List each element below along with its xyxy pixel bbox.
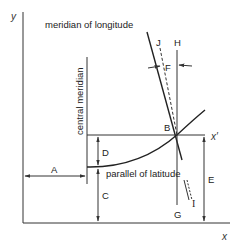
x-prime-label: x′	[210, 131, 219, 142]
parallel-label: parallel of latitude	[106, 168, 180, 179]
label-H: H	[174, 37, 181, 48]
label-F: F	[165, 62, 171, 73]
label-B: B	[164, 122, 170, 133]
central-meridian-label: central meridian	[74, 67, 85, 135]
label-D: D	[102, 147, 109, 158]
y-axis-label: y	[10, 11, 17, 22]
label-G: G	[174, 209, 181, 220]
label-C: C	[102, 190, 109, 201]
label-J: J	[156, 37, 161, 48]
arrow-F-right	[179, 65, 192, 66]
arrow-F-left	[148, 66, 160, 68]
label-E: E	[208, 174, 214, 185]
label-I: I	[192, 198, 195, 209]
x-axis-label: x	[221, 231, 228, 242]
label-A: A	[51, 164, 58, 175]
parallel-of-latitude-curve	[87, 110, 205, 167]
line-I-solid	[184, 180, 189, 200]
meridian-label: meridian of longitude	[45, 19, 133, 30]
map-projection-diagram: y x central meridian x′ parallel of lati…	[0, 0, 241, 250]
